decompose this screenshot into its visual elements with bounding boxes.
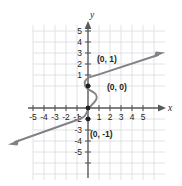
y-tick-label-1: 1	[77, 70, 82, 80]
x-tick-label-neg5: -5	[29, 112, 37, 122]
coordinate-plane: -5 -4 -3 -2 -1 1 2 3 4 5 5 4 3 2 1 -2 -3…	[0, 0, 182, 186]
marked-point-0-1	[86, 84, 91, 89]
y-axis-name: y	[89, 10, 95, 20]
y-axis	[85, 21, 92, 178]
marked-point-0-0	[86, 106, 91, 111]
y-tick-label-4: 4	[77, 37, 82, 47]
curve-arrow-right	[154, 51, 165, 57]
x-tick-label-5: 5	[141, 112, 146, 122]
curve-arrow-left	[8, 140, 19, 146]
y-tick-label-3: 3	[77, 48, 82, 58]
x-tick-label-neg3: -3	[51, 112, 59, 122]
x-tick-label-1: 1	[97, 112, 102, 122]
x-axis	[28, 105, 166, 112]
x-tick-label-neg2: -2	[62, 112, 70, 122]
x-tick-label-neg4: -4	[40, 112, 48, 122]
curve-relation	[8, 51, 165, 145]
marked-point-0-neg1	[86, 117, 91, 122]
label-point-0-1: (0, 1)	[97, 54, 117, 64]
x-tick-label-3: 3	[119, 112, 124, 122]
y-tick-label-neg5: -5	[74, 147, 82, 157]
graph-figure: -5 -4 -3 -2 -1 1 2 3 4 5 5 4 3 2 1 -2 -3…	[0, 0, 182, 186]
y-tick-label-neg4: -4	[74, 136, 82, 146]
label-point-0-0: (0, 0)	[107, 82, 127, 92]
x-tick-label-4: 4	[130, 112, 135, 122]
y-tick-label-neg3: -3	[74, 125, 82, 135]
y-tick-label-5: 5	[77, 26, 82, 36]
label-point-0-neg1: (0, -1)	[90, 129, 113, 139]
x-tick-label-2: 2	[108, 112, 113, 122]
y-tick-label-2: 2	[77, 59, 82, 69]
x-axis-name: x	[167, 103, 173, 113]
